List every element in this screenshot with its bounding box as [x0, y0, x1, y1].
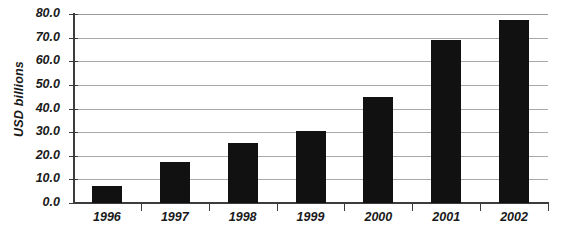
plot-area — [73, 14, 548, 203]
y-axis-tick-mark — [69, 156, 78, 157]
bar-1999 — [296, 131, 326, 203]
gridline — [73, 14, 548, 15]
y-axis-tick-label: 50.0 — [0, 77, 60, 91]
y-axis-tick-mark — [69, 61, 78, 62]
gridline — [73, 85, 548, 86]
y-axis-tick-label: 0.0 — [0, 195, 60, 209]
y-axis-tick-mark — [69, 132, 78, 133]
x-axis-tick-label-1997: 1997 — [141, 210, 209, 224]
gridline — [73, 109, 548, 110]
bar-1997 — [160, 162, 190, 203]
y-axis-tick-label: 30.0 — [0, 124, 60, 138]
y-axis-tick-label: 10.0 — [0, 171, 60, 185]
y-axis-tick-label: 20.0 — [0, 148, 60, 162]
gridline — [73, 38, 548, 39]
y-axis-tick-mark — [69, 38, 78, 39]
y-axis-tick-label: 70.0 — [0, 30, 60, 44]
x-axis-tick-label-2000: 2000 — [344, 210, 412, 224]
y-axis-tick-mark — [69, 179, 78, 180]
gridline — [73, 61, 548, 62]
y-axis-tick-mark — [69, 203, 78, 204]
x-axis-tick-label-2001: 2001 — [412, 210, 480, 224]
bar-2002 — [499, 20, 529, 203]
y-axis-tick-mark — [69, 14, 78, 15]
x-axis-tick-label-2002: 2002 — [480, 210, 548, 224]
y-axis-tick-label: 40.0 — [0, 101, 60, 115]
x-axis-tick-mark — [548, 202, 549, 211]
x-axis-tick-label-1999: 1999 — [277, 210, 345, 224]
y-axis-tick-mark — [69, 109, 78, 110]
bar-2000 — [363, 97, 393, 203]
y-axis-tick-mark — [69, 85, 78, 86]
bar-1996 — [92, 186, 122, 203]
y-axis-tick-label: 80.0 — [0, 6, 60, 20]
x-axis-tick-label-1998: 1998 — [209, 210, 277, 224]
y-axis-tick-label: 60.0 — [0, 53, 60, 67]
bar-chart: USD billions 0.010.020.030.040.050.060.0… — [0, 0, 565, 237]
bar-2001 — [431, 40, 461, 203]
bar-1998 — [228, 143, 258, 203]
x-axis-tick-label-1996: 1996 — [73, 210, 141, 224]
